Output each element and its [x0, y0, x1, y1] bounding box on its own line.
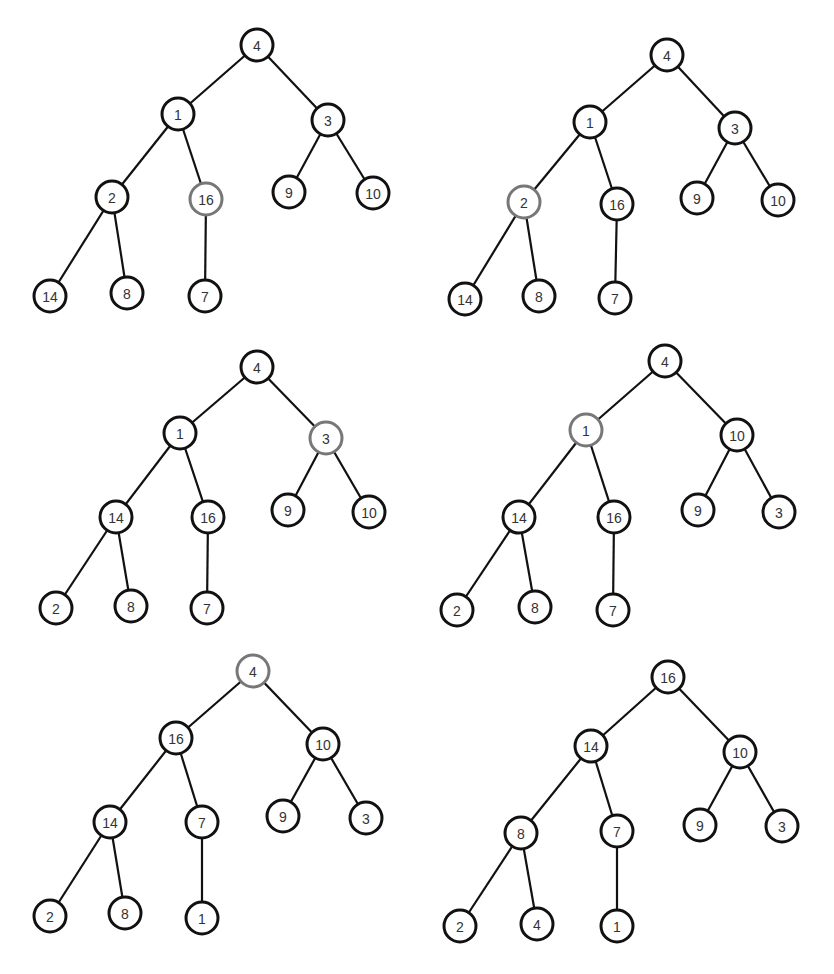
node-label: 1 [586, 115, 594, 131]
tree-node: 7 [597, 594, 629, 626]
tree-node: 9 [273, 176, 305, 208]
node-label: 2 [46, 909, 54, 925]
node-label: 4 [249, 664, 257, 680]
tree-node: 3 [766, 810, 798, 842]
tree-node: 4 [521, 908, 553, 940]
node-label: 9 [693, 191, 701, 207]
node-label: 2 [456, 919, 464, 935]
tree-node: 9 [267, 800, 299, 832]
node-label: 16 [606, 510, 622, 526]
tree-node: 7 [189, 280, 221, 312]
node-label: 14 [108, 510, 124, 526]
tree-node: 2 [96, 181, 128, 213]
tree-node: 9 [681, 182, 713, 214]
node-label: 16 [200, 510, 216, 526]
tree-node: 9 [272, 494, 304, 526]
tree-node: 3 [312, 104, 344, 136]
node-label: 9 [696, 818, 704, 834]
tree-node: 7 [186, 806, 218, 838]
node-label: 10 [770, 193, 786, 209]
node-label: 2 [52, 601, 60, 617]
tree-node: 8 [523, 280, 555, 312]
tree-node-highlighted: 4 [237, 655, 269, 687]
node-label: 14 [511, 510, 527, 526]
node-label: 2 [108, 190, 116, 206]
tree-node: 8 [519, 591, 551, 623]
node-label: 2 [453, 603, 461, 619]
tree-node: 1 [574, 106, 606, 138]
tree-node: 10 [307, 728, 339, 760]
tree-node: 14 [100, 501, 132, 533]
node-label: 16 [609, 197, 625, 213]
node-label: 3 [362, 811, 370, 827]
node-label: 14 [457, 292, 473, 308]
tree-node: 8 [109, 897, 141, 929]
tree-node-highlighted: 2 [508, 186, 540, 218]
heap-tree-step-a: 4132169101487 [34, 29, 389, 312]
tree-node: 8 [111, 277, 143, 309]
node-label: 10 [732, 745, 748, 761]
tree-node: 16 [601, 188, 633, 220]
node-label: 3 [322, 431, 330, 447]
node-label: 4 [533, 917, 541, 933]
node-label: 14 [42, 289, 58, 305]
node-label: 8 [535, 289, 543, 305]
node-label: 8 [121, 906, 129, 922]
node-label: 3 [731, 121, 739, 137]
node-label: 4 [661, 354, 669, 370]
tree-node: 16 [192, 501, 224, 533]
node-label: 1 [176, 426, 184, 442]
node-label: 8 [531, 600, 539, 616]
tree-node-highlighted: 1 [570, 414, 602, 446]
node-label: 14 [583, 739, 599, 755]
tree-node: 8 [115, 590, 147, 622]
heap-tree-step-e: 4161014793281 [34, 655, 382, 934]
tree-node: 2 [441, 594, 473, 626]
tree-node: 16 [652, 661, 684, 693]
tree-node: 4 [651, 39, 683, 71]
tree-node: 14 [575, 730, 607, 762]
heap-tree-step-b: 4132169101487 [449, 39, 794, 315]
tree-node: 4 [649, 345, 681, 377]
tree-node: 3 [350, 802, 382, 834]
tree-node: 1 [601, 910, 633, 942]
node-label: 9 [694, 503, 702, 519]
node-label: 16 [660, 670, 676, 686]
tree-node: 2 [34, 900, 66, 932]
tree-node: 8 [505, 817, 537, 849]
node-label: 3 [775, 505, 783, 521]
node-label: 7 [609, 603, 617, 619]
tree-node: 10 [721, 419, 753, 451]
tree-node: 10 [724, 736, 756, 768]
node-label: 1 [198, 911, 206, 927]
tree-node: 16 [598, 501, 630, 533]
tree-node: 2 [444, 910, 476, 942]
heap-tree-step-d: 4110141693287 [441, 345, 795, 626]
node-label: 3 [778, 819, 786, 835]
tree-node: 2 [40, 592, 72, 624]
node-label: 4 [663, 48, 671, 64]
node-label: 8 [123, 286, 131, 302]
node-label: 4 [253, 38, 261, 54]
node-label: 7 [201, 289, 209, 305]
node-label: 4 [253, 360, 261, 376]
tree-node: 7 [601, 815, 633, 847]
node-label: 9 [279, 809, 287, 825]
tree-node: 10 [353, 496, 385, 528]
tree-node: 10 [357, 177, 389, 209]
tree-node: 1 [164, 417, 196, 449]
tree-node: 14 [503, 501, 535, 533]
tree-node: 9 [684, 809, 716, 841]
node-label: 8 [517, 826, 525, 842]
node-label: 1 [582, 423, 590, 439]
tree-node-highlighted: 3 [310, 422, 342, 454]
tree-node-highlighted: 16 [190, 183, 222, 215]
tree-node: 10 [762, 184, 794, 216]
node-label: 7 [198, 815, 206, 831]
node-label: 1 [174, 107, 182, 123]
node-label: 10 [729, 428, 745, 444]
node-label: 10 [361, 505, 377, 521]
tree-node: 7 [191, 592, 223, 624]
node-label: 9 [285, 185, 293, 201]
heap-tree-step-f: 1614108793241 [444, 661, 798, 942]
